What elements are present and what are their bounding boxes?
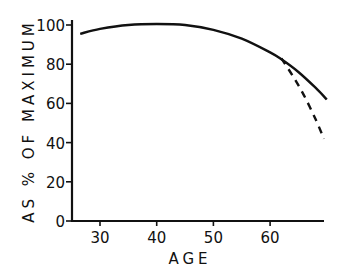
y-tick-label: 20 [46, 174, 65, 192]
data-series [80, 24, 327, 139]
x-tick-label: 50 [204, 229, 223, 247]
y-ticks: 020406080100 [36, 17, 72, 231]
axes [71, 20, 324, 222]
x-tick-label: 40 [147, 229, 166, 247]
y-tick-label: 80 [46, 56, 65, 74]
y-tick-label: 40 [46, 135, 65, 153]
x-ticks: 30405060 [90, 221, 279, 247]
y-axis-title: AS % OF MAXIMUM [20, 19, 38, 223]
solid-curve [80, 24, 327, 100]
line-chart: 020406080100 30405060 AGE AS % OF MAXIMU… [0, 0, 346, 279]
y-tick-label: 0 [55, 213, 65, 231]
x-tick-label: 30 [90, 229, 109, 247]
dashed-curve [281, 58, 324, 138]
y-tick-label: 100 [36, 17, 65, 35]
x-axis-title: AGE [168, 250, 211, 268]
x-tick-label: 60 [261, 229, 280, 247]
y-tick-label: 60 [46, 95, 65, 113]
